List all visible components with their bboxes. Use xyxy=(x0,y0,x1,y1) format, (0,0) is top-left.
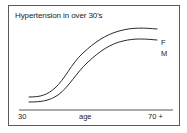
plot-area xyxy=(9,6,179,125)
series-line-f xyxy=(29,28,157,97)
chart-frame: Hypertension in over 30's F M 30 age 70 … xyxy=(8,5,180,126)
series-label-m: M xyxy=(161,50,167,58)
series-label-f: F xyxy=(161,39,166,47)
x-axis-title: age xyxy=(79,112,92,121)
x-axis-tick-end: 70 + xyxy=(148,112,163,121)
chart-screenshot: Hypertension in over 30's F M 30 age 70 … xyxy=(0,0,187,133)
x-axis-tick-start: 30 xyxy=(18,112,26,121)
